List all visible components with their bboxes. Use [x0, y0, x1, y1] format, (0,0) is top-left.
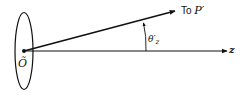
- origin-point: [22, 49, 26, 53]
- ray-label: To P′: [181, 5, 204, 16]
- angle-arc-icon: [144, 23, 147, 51]
- diagram-canvas: [0, 0, 247, 96]
- ray-label-prefix: To: [181, 5, 194, 16]
- origin-label: Õ: [18, 58, 27, 69]
- angle-subscript: z: [155, 38, 159, 46]
- z-axis-label: z: [229, 45, 235, 55]
- angle-label: θ′z: [148, 35, 159, 46]
- ray-label-point: P′: [194, 4, 204, 17]
